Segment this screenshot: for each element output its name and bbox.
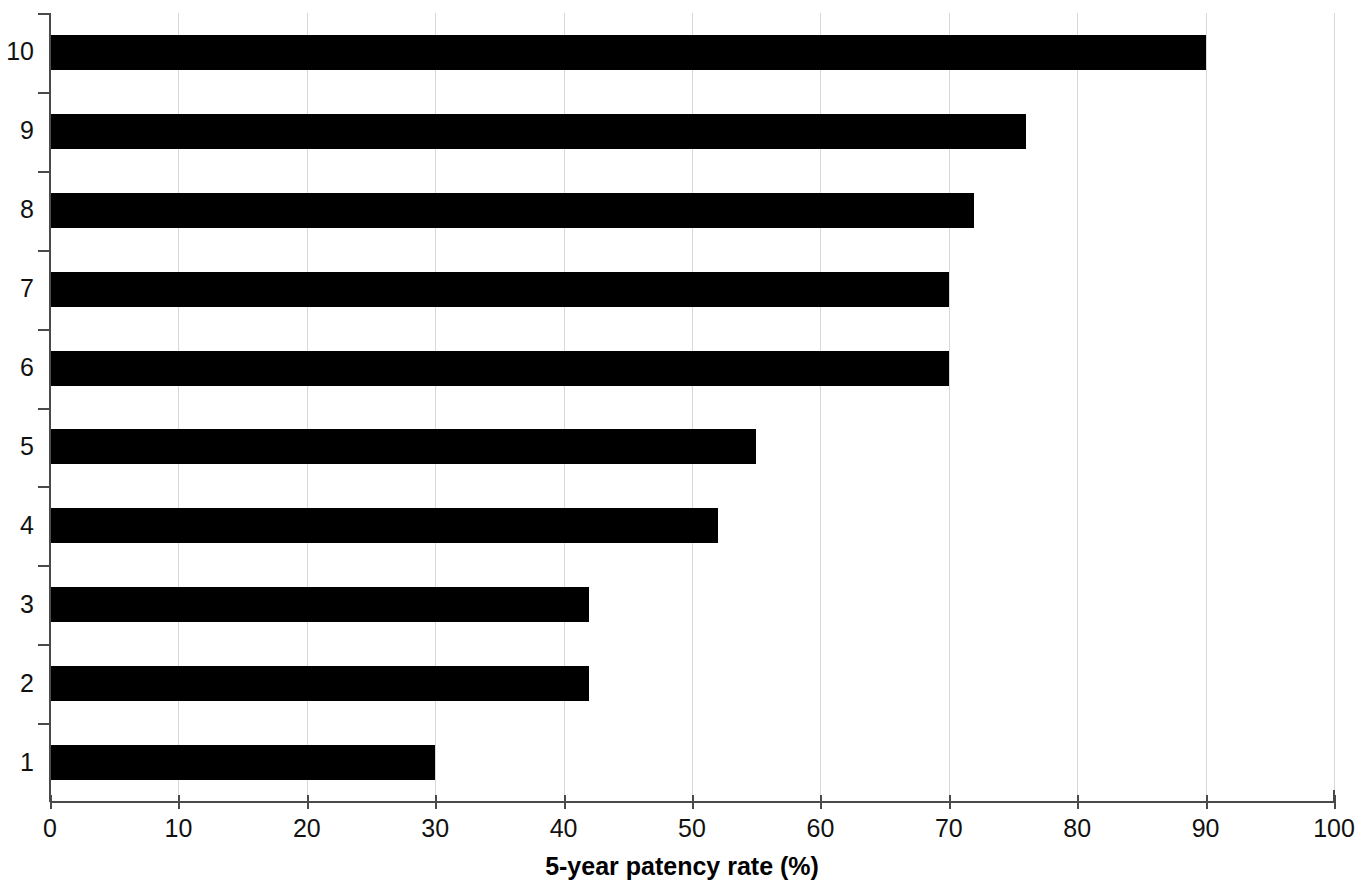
x-tick-label-30: 30 xyxy=(390,815,480,841)
y-tick-6 xyxy=(38,486,50,488)
x-tick-50 xyxy=(692,795,694,809)
x-tick-label-0: 0 xyxy=(5,815,95,841)
x-tick-10 xyxy=(178,795,180,809)
bar-2 xyxy=(50,666,589,701)
bar-10 xyxy=(50,35,1206,70)
y-tick-label-3: 3 xyxy=(0,592,34,617)
x-tick-30 xyxy=(435,795,437,809)
x-tick-label-80: 80 xyxy=(1032,815,1122,841)
x-axis-title: 5-year patency rate (%) xyxy=(0,852,1364,881)
bar-4 xyxy=(50,508,718,543)
y-tick-2 xyxy=(38,171,50,173)
x-tick-label-20: 20 xyxy=(262,815,352,841)
x-tick-80 xyxy=(1077,795,1079,809)
x-tick-20 xyxy=(307,795,309,809)
x-tick-label-70: 70 xyxy=(904,815,994,841)
x-tick-label-40: 40 xyxy=(519,815,609,841)
y-tick-label-7: 7 xyxy=(0,276,34,301)
y-tick-label-5: 5 xyxy=(0,434,34,459)
bar-1 xyxy=(50,745,435,780)
bar-9 xyxy=(50,114,1026,149)
y-tick-8 xyxy=(38,644,50,646)
y-axis-tick-labels: 12345678910 xyxy=(0,0,34,891)
y-tick-1 xyxy=(38,92,50,94)
y-tick-label-4: 4 xyxy=(0,513,34,538)
bar-8 xyxy=(50,193,974,228)
bar-chart: 12345678910 0102030405060708090100 5-yea… xyxy=(0,0,1364,891)
bar-7 xyxy=(50,272,949,307)
gridline-100 xyxy=(1334,13,1335,802)
y-tick-label-1: 1 xyxy=(0,750,34,775)
x-tick-60 xyxy=(820,795,822,809)
x-tick-label-50: 50 xyxy=(647,815,737,841)
bar-3 xyxy=(50,587,589,622)
x-tick-40 xyxy=(564,795,566,809)
gridline-90 xyxy=(1206,13,1207,802)
plot-area xyxy=(50,13,1334,802)
bar-6 xyxy=(50,351,949,386)
y-tick-label-2: 2 xyxy=(0,671,34,696)
y-tick-label-8: 8 xyxy=(0,197,34,222)
x-tick-0 xyxy=(50,795,52,809)
x-tick-label-100: 100 xyxy=(1289,815,1364,841)
y-tick-7 xyxy=(38,565,50,567)
y-tick-label-6: 6 xyxy=(0,355,34,380)
y-tick-0 xyxy=(38,13,50,15)
x-tick-90 xyxy=(1206,795,1208,809)
y-tick-4 xyxy=(38,329,50,331)
x-tick-label-90: 90 xyxy=(1161,815,1251,841)
y-tick-5 xyxy=(38,408,50,410)
x-tick-100 xyxy=(1334,795,1336,809)
y-tick-3 xyxy=(38,250,50,252)
x-tick-label-10: 10 xyxy=(133,815,223,841)
y-tick-9 xyxy=(38,723,50,725)
x-tick-70 xyxy=(949,795,951,809)
gridline-80 xyxy=(1077,13,1078,802)
bar-5 xyxy=(50,429,756,464)
x-tick-label-60: 60 xyxy=(775,815,865,841)
y-tick-label-10: 10 xyxy=(0,39,34,64)
y-tick-label-9: 9 xyxy=(0,118,34,143)
